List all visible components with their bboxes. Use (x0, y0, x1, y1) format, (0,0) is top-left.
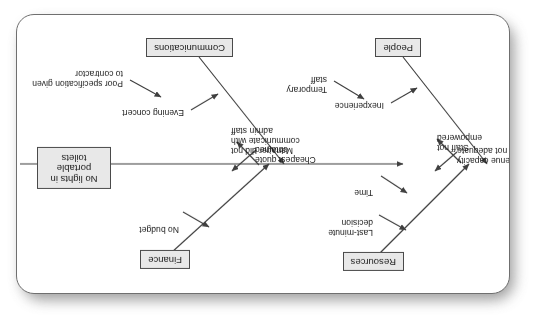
bone-finance (171, 164, 269, 253)
diagram-card: No lights in portable toilets Finance Re… (16, 14, 510, 294)
bone-resources (380, 164, 469, 253)
cause-label-resources-time: Time (354, 187, 373, 197)
category-box-resources: Resources (343, 252, 404, 271)
cause-label-finance-no-budget: No budget (139, 224, 179, 234)
cause-label-people-temporary-staff: Temporary staff (286, 74, 327, 94)
cause-line-resources-1 (379, 215, 406, 230)
cause-label-resources-last-minute: Last-minute decision (328, 217, 373, 237)
cause-line-comms-1 (191, 94, 218, 110)
cause-label-comms-manager: Manager did not communicate with admin s… (231, 126, 323, 155)
cause-label-comms-evening-concert: Evening concert (122, 107, 184, 117)
cause-line-finance-1 (183, 212, 209, 227)
diagram-canvas: No lights in portable toilets Finance Re… (0, 0, 540, 321)
category-box-communications: Communications (146, 38, 233, 57)
cause-line-resources-3 (435, 152, 457, 171)
cause-line-comms-3 (130, 80, 161, 97)
rotated-content: No lights in portable toilets Finance Re… (17, 15, 509, 293)
cause-label-people-inexperience: Inexperience (335, 100, 384, 110)
category-box-people: People (375, 38, 421, 57)
cause-label-comms-poor-spec: Poor specification given to contractor (32, 68, 123, 88)
cause-line-resources-2 (381, 176, 407, 193)
category-box-finance: Finance (140, 250, 190, 269)
cause-label-people-not-empowered: Staff not empowered (437, 132, 510, 152)
effect-box: No lights in portable toilets (37, 147, 111, 189)
cause-line-people-2 (334, 81, 364, 99)
cause-line-people-1 (391, 88, 417, 103)
